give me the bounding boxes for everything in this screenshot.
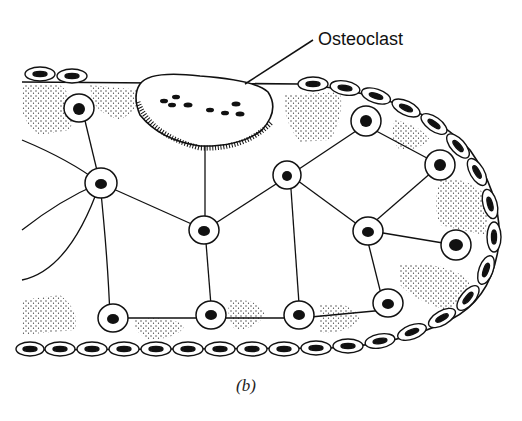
osteocyte — [196, 301, 226, 329]
osteoclast-label: Osteoclast — [318, 29, 403, 50]
osteocyte — [85, 168, 117, 198]
osteocyte — [284, 301, 314, 329]
osteocyte — [373, 289, 403, 317]
osteocyte — [441, 230, 471, 260]
osteocyte — [425, 150, 455, 180]
osteoclast — [136, 74, 273, 148]
osteoclast-leader-line — [245, 40, 313, 84]
osteocyte — [351, 106, 381, 136]
figure-caption: (b) — [236, 376, 256, 396]
osteocyte — [353, 217, 383, 245]
osteocyte — [189, 216, 219, 244]
osteocyte — [64, 94, 94, 122]
bone-tissue-diagram — [0, 0, 522, 421]
osteocyte — [98, 304, 128, 332]
osteocyte — [273, 161, 301, 189]
